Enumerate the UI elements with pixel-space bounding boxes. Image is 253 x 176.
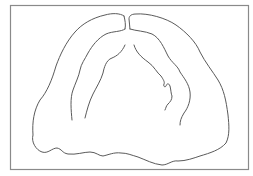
- figure-frame: [11, 6, 249, 170]
- dental-arch-figure: [0, 0, 253, 176]
- dental-arch-svg: [0, 0, 253, 176]
